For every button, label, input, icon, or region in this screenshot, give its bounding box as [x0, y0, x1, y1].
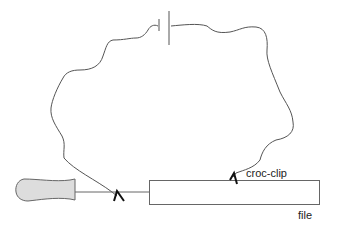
- file-label: file: [298, 210, 312, 221]
- croc-clip-label: croc-clip: [246, 168, 287, 179]
- battery-icon: [159, 11, 169, 45]
- file-rect: [150, 181, 320, 205]
- wire-right: [171, 24, 293, 177]
- wire-left: [51, 25, 158, 196]
- circuit-diagram: [0, 0, 337, 231]
- screwdriver-handle: [16, 179, 75, 201]
- croc-clip-right-icon: [230, 173, 237, 184]
